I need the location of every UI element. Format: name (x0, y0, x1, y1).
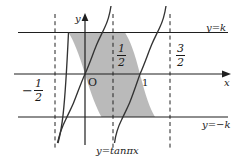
label-three-halves-numerator: 3 (176, 43, 185, 54)
label-y-equals-k: y=k (206, 23, 226, 33)
label-negative-one-half-sign: − (22, 83, 33, 98)
label-curve-equation: y=tanπx (96, 146, 139, 156)
label-origin: O (88, 77, 97, 88)
shaded-region (69, 33, 156, 118)
label-y-equals-minus-k: y=−k (202, 120, 230, 130)
label-one-half-numerator: 1 (117, 43, 126, 54)
math-figure: y=k y=−k y=tanπx x y O 1 1 2 3 2 − 1 2 (0, 0, 246, 167)
label-tick-one: 1 (142, 78, 148, 88)
label-negative-one-half-stack: 1 2 (34, 78, 43, 103)
label-negative-one-half-denominator: 2 (35, 92, 42, 103)
label-one-half: 1 2 (117, 43, 126, 68)
label-three-halves-denominator: 2 (176, 57, 185, 68)
y-axis-arrowhead (82, 13, 89, 21)
label-negative-one-half-numerator: 1 (35, 78, 42, 89)
label-x-axis: x (224, 78, 230, 88)
label-one-half-denominator: 2 (117, 57, 126, 68)
label-y-axis: y (75, 14, 81, 24)
label-negative-one-half: − 1 2 (22, 78, 43, 103)
label-three-halves: 3 2 (176, 43, 185, 68)
